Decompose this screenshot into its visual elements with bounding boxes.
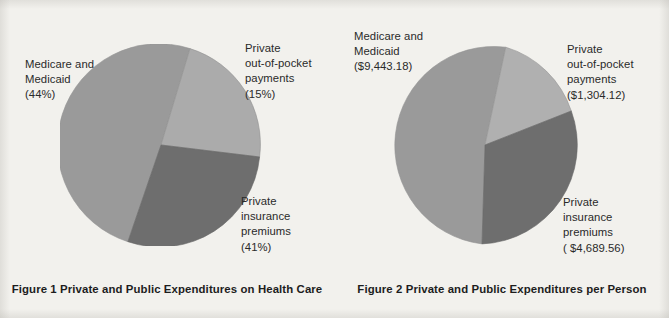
figure-page: Medicare and Medicaid (44%) Private out-…	[0, 0, 669, 318]
caption-figure-1: Figure 1 Private and Public Expenditures…	[0, 283, 334, 295]
figure-1: Medicare and Medicaid (44%) Private out-…	[0, 0, 334, 318]
caption-figure-2: Figure 2 Private and Public Expenditures…	[335, 283, 669, 295]
label-out-of-pocket-figure-1: Private out-of-pocket payments (15%)	[245, 41, 340, 102]
label-private-insurance-figure-2: Private insurance premiums ( $4,689.56)	[563, 195, 668, 256]
pie-chart-figure-2	[385, 45, 585, 245]
label-out-of-pocket-figure-2: Private out-of-pocket payments ($1,304.1…	[567, 42, 667, 103]
label-private-insurance-figure-1: Private insurance premiums (41%)	[241, 194, 336, 255]
pie-svg-2	[385, 45, 585, 245]
label-medicare-medicaid-figure-2: Medicare and Medicaid ($9,443.18)	[354, 29, 469, 75]
label-medicare-medicaid-figure-1: Medicare and Medicaid (44%)	[25, 57, 140, 103]
figure-2: Medicare and Medicaid ($9,443.18) Privat…	[335, 0, 669, 318]
